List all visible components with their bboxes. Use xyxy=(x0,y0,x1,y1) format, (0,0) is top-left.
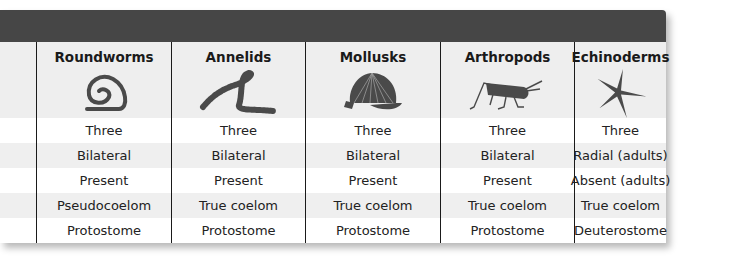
row-label-header xyxy=(0,42,36,118)
column-name: Mollusks xyxy=(340,47,407,67)
grasshopper-icon xyxy=(468,69,548,115)
column-header-annelids: Annelids xyxy=(171,42,305,118)
annelid-icon xyxy=(199,69,279,115)
table-row: Bilateral Bilateral Bilateral Bilateral … xyxy=(0,143,666,168)
table-cell: Absent (adults) xyxy=(574,168,666,193)
column-name: Arthropods xyxy=(465,47,551,67)
roundworm-icon xyxy=(79,69,129,115)
table-cell: Radial (adults) xyxy=(574,143,666,168)
table-cell: Present xyxy=(36,168,171,193)
table-cell: Bilateral xyxy=(171,143,305,168)
column-name: Annelids xyxy=(206,47,272,67)
table-cell: True coelom xyxy=(171,193,305,218)
table-cell: True coelom xyxy=(440,193,574,218)
table-cell: True coelom xyxy=(305,193,440,218)
table-cell: Present xyxy=(171,168,305,193)
header-row: Roundworms Annelids Mollusks xyxy=(0,42,666,118)
table-cell: Bilateral xyxy=(440,143,574,168)
column-header-roundworms: Roundworms xyxy=(36,42,171,118)
table-cell: Three xyxy=(574,118,666,143)
column-header-mollusks: Mollusks xyxy=(305,42,440,118)
table-cell: Three xyxy=(305,118,440,143)
row-label xyxy=(0,118,36,143)
table-cell: Protostome xyxy=(440,218,574,243)
row-label xyxy=(0,168,36,193)
row-label xyxy=(0,193,36,218)
table-cell: Protostome xyxy=(36,218,171,243)
table-title-bar xyxy=(0,10,666,42)
table-cell: Three xyxy=(36,118,171,143)
row-label xyxy=(0,218,36,243)
starfish-icon xyxy=(593,69,649,118)
table-row: Pseudocoelom True coelom True coelom Tru… xyxy=(0,193,666,218)
table-row: Present Present Present Present Absent (… xyxy=(0,168,666,193)
column-header-arthropods: Arthropods xyxy=(440,42,574,118)
table-cell: Pseudocoelom xyxy=(36,193,171,218)
column-header-echinoderms: Echinoderms xyxy=(574,42,666,118)
table-cell: True coelom xyxy=(574,193,666,218)
table-cell: Bilateral xyxy=(305,143,440,168)
table-cell: Protostome xyxy=(171,218,305,243)
table-cell: Three xyxy=(171,118,305,143)
table-cell: Deuterostome xyxy=(574,218,666,243)
table-cell: Bilateral xyxy=(36,143,171,168)
table-row: Protostome Protostome Protostome Protost… xyxy=(0,218,666,243)
comparison-table: Roundworms Annelids Mollusks xyxy=(0,10,666,243)
table-cell: Present xyxy=(305,168,440,193)
table-cell: Protostome xyxy=(305,218,440,243)
table-cell: Present xyxy=(440,168,574,193)
row-label xyxy=(0,143,36,168)
table-row: Three Three Three Three Three xyxy=(0,118,666,143)
column-name: Roundworms xyxy=(54,47,153,67)
table-cell: Three xyxy=(440,118,574,143)
mollusk-shell-icon xyxy=(340,69,406,115)
column-name: Echinoderms xyxy=(572,47,670,67)
